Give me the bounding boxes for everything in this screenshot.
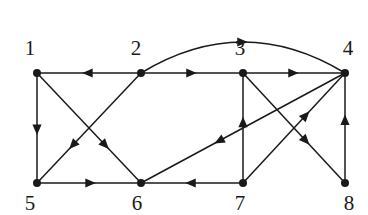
edge-layer	[37, 42, 345, 183]
node-8[interactable]	[341, 179, 349, 187]
node-label-7: 7	[235, 193, 246, 214]
arrowhead-layer	[32, 37, 349, 187]
arrowhead-7-to-3	[238, 117, 247, 128]
graph-canvas	[0, 0, 368, 215]
node-label-1: 1	[25, 38, 36, 59]
arrowhead-2-to-1	[82, 68, 93, 77]
arrowhead-5-to-6	[85, 178, 96, 187]
node-5[interactable]	[33, 179, 41, 187]
node-layer	[33, 69, 349, 187]
arrowhead-1-to-5	[32, 124, 41, 135]
arrowhead-8-to-4	[340, 114, 349, 125]
node-label-3: 3	[235, 38, 246, 59]
node-6[interactable]	[137, 179, 145, 187]
node-3[interactable]	[239, 69, 247, 77]
node-label-5: 5	[25, 193, 36, 214]
directed-graph-figure: 12345678	[0, 0, 368, 215]
node-label-4: 4	[343, 38, 354, 59]
node-7[interactable]	[239, 179, 247, 187]
arrowhead-2-to-3	[186, 68, 197, 77]
node-4[interactable]	[341, 69, 349, 77]
arrowhead-3-to-4	[288, 68, 299, 77]
node-label-2: 2	[131, 38, 142, 59]
node-label-8: 8	[344, 193, 355, 214]
node-2[interactable]	[137, 69, 145, 77]
node-1[interactable]	[33, 69, 41, 77]
arrowhead-7-to-6	[185, 178, 196, 187]
node-label-6: 6	[132, 193, 143, 214]
